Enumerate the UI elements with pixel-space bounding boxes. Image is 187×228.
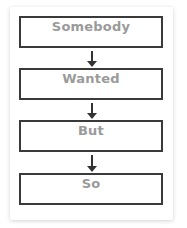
- step-label: Wanted: [21, 71, 161, 86]
- step-box-so: So: [19, 173, 163, 205]
- step-box-but: But: [19, 120, 163, 152]
- step-box-somebody: Somebody: [19, 16, 163, 48]
- step-label: Somebody: [21, 19, 161, 34]
- step-box-wanted: Wanted: [19, 68, 163, 100]
- down-arrow-icon: [91, 51, 93, 66]
- down-arrow-icon: [91, 103, 93, 118]
- step-label: But: [21, 123, 161, 138]
- down-arrow-icon: [91, 155, 93, 171]
- step-label: So: [21, 176, 161, 191]
